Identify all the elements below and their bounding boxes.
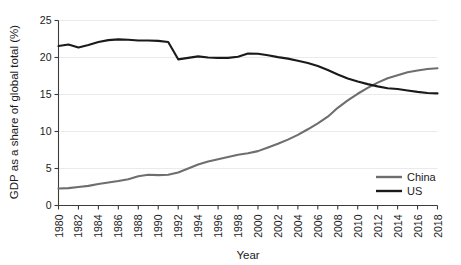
chart-canvas: 0510152025 19801982198419861988199019921… — [0, 0, 461, 265]
legend: ChinaUS — [376, 171, 437, 197]
y-axis: 0510152025 — [40, 14, 59, 211]
y-tick-label: 10 — [40, 125, 52, 137]
x-tick-label: 1982 — [72, 214, 84, 238]
gdp-share-line-chart: 0510152025 19801982198419861988199019921… — [0, 0, 461, 265]
x-tick-label: 1998 — [232, 214, 244, 238]
x-tick-label: 1988 — [132, 214, 144, 238]
y-tick-label: 0 — [46, 199, 52, 211]
x-tick-label: 1990 — [152, 214, 164, 238]
x-tick-label: 2002 — [272, 214, 284, 238]
x-tick-label: 1984 — [92, 214, 104, 238]
x-tick-label: 2016 — [412, 214, 424, 238]
x-tick-label: 1994 — [192, 214, 204, 238]
y-axis-title: GDP as a share of global total (%) — [8, 25, 20, 199]
x-tick-label: 1986 — [112, 214, 124, 238]
x-tick-label: 1980 — [53, 214, 65, 238]
x-tick-label: 2008 — [332, 214, 344, 238]
x-tick-label: 2018 — [432, 214, 444, 238]
y-tick-label: 25 — [40, 14, 52, 26]
x-tick-label: 2006 — [312, 214, 324, 238]
legend-label-china: China — [407, 171, 437, 183]
x-tick-label: 1992 — [172, 214, 184, 238]
y-tick-label: 20 — [40, 51, 52, 63]
grid-lines — [59, 21, 438, 169]
data-series — [59, 39, 438, 188]
x-tick-label: 2010 — [352, 214, 364, 238]
x-axis: 1980198219841986198819901992199419961998… — [53, 206, 444, 238]
x-tick-label: 2012 — [372, 214, 384, 238]
series-line-us — [59, 39, 438, 93]
x-tick-label: 2004 — [292, 214, 304, 238]
y-tick-label: 15 — [40, 88, 52, 100]
legend-label-us: US — [407, 185, 422, 197]
y-tick-label: 5 — [46, 162, 52, 174]
x-tick-label: 2014 — [392, 214, 404, 238]
x-tick-label: 1996 — [212, 214, 224, 238]
x-tick-label: 2000 — [252, 214, 264, 238]
x-axis-title: Year — [236, 249, 259, 261]
